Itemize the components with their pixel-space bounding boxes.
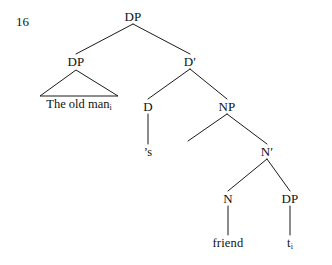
tree-branch-dbar-to-np <box>190 69 227 99</box>
node-n-head: N <box>223 192 233 205</box>
terminal-possessive: ’s <box>144 146 153 159</box>
tree-branch-root-to-dbar <box>133 24 190 54</box>
node-d-head: D <box>143 100 153 113</box>
node-obj-dp: DP <box>281 192 298 205</box>
node-np: NP <box>218 100 235 113</box>
node-d-bar: D′ <box>184 55 197 68</box>
abbreviation-triangle <box>40 70 118 96</box>
terminal-noun: friend <box>212 237 243 250</box>
terminal-trace: ti <box>287 237 293 250</box>
tree-branch-root-to-spec <box>76 24 133 54</box>
tree-branch-dbar-to-d <box>148 69 190 99</box>
tree-branch-np-spec-stub <box>188 114 227 141</box>
tree-branch-np-to-nbar <box>227 114 267 144</box>
tree-branch-nbar-to-n <box>228 159 267 191</box>
syntax-tree-figure: 16 The old maniDPDPD′DNPN′NDP’sfriendti <box>0 0 332 265</box>
node-spec-dp: DP <box>67 55 84 68</box>
triangle-label-the-old-man: The old mani <box>46 98 111 111</box>
tree-branch-nbar-to-dp <box>267 159 290 191</box>
tree-branches <box>0 0 332 265</box>
node-root-dp: DP <box>124 10 141 23</box>
index-subscript: i <box>291 242 293 251</box>
node-n-bar: N′ <box>261 145 274 158</box>
